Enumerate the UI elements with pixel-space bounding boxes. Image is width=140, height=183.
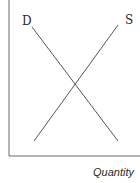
supply-demand-chart: D S Quantity [0, 0, 140, 183]
supply-label: S [125, 13, 133, 27]
demand-label: D [22, 14, 32, 28]
x-axis-label: Quantity [93, 166, 135, 178]
